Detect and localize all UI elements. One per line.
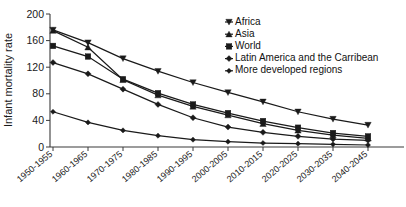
data-point-marker bbox=[50, 43, 56, 49]
data-point-marker bbox=[120, 86, 126, 92]
series-5 bbox=[50, 109, 370, 147]
data-point-marker bbox=[260, 129, 266, 135]
y-axis-label: Infant mortality rate bbox=[2, 33, 14, 127]
legend-item[interactable]: Africa bbox=[225, 16, 261, 27]
data-point-marker bbox=[330, 142, 335, 147]
x-axis-ticks bbox=[53, 147, 368, 151]
infant-mortality-chart: Infant mortality rate 04080120160200 195… bbox=[0, 0, 406, 207]
legend-item[interactable]: Asia bbox=[225, 28, 255, 39]
data-point-marker bbox=[295, 141, 300, 146]
x-tick-label: 1960-1965 bbox=[50, 149, 89, 184]
x-tick-label: 1980-1985 bbox=[120, 149, 159, 184]
data-point-marker bbox=[190, 137, 195, 142]
y-tick-label: 120 bbox=[26, 61, 44, 73]
data-point-marker bbox=[120, 128, 125, 133]
data-point-marker bbox=[120, 76, 126, 82]
chart-canvas: Infant mortality rate 04080120160200 195… bbox=[0, 0, 406, 207]
legend-label: Asia bbox=[235, 28, 255, 39]
data-point-marker bbox=[295, 125, 301, 131]
y-tick-label: 40 bbox=[32, 114, 44, 126]
data-point-marker bbox=[50, 60, 56, 66]
series-layer bbox=[50, 27, 371, 147]
x-tick-label: 2000-2005 bbox=[190, 149, 229, 184]
data-point-marker bbox=[330, 130, 336, 136]
x-tick-label: 1950-1955 bbox=[15, 149, 54, 184]
legend-label: Latin America and the Carribean bbox=[235, 52, 378, 63]
x-tick-label: 1990-1995 bbox=[155, 149, 194, 184]
data-point-marker bbox=[50, 109, 55, 114]
data-point-marker bbox=[260, 140, 265, 145]
legend-label: More developed regions bbox=[235, 64, 342, 75]
data-point-marker bbox=[225, 110, 231, 116]
data-point-marker bbox=[85, 54, 91, 60]
legend-label: World bbox=[235, 40, 261, 51]
data-point-marker bbox=[226, 56, 232, 62]
legend-item[interactable]: World bbox=[225, 40, 261, 51]
data-point-marker bbox=[226, 44, 232, 50]
x-tick-label: 2010-2015 bbox=[225, 149, 264, 184]
data-point-marker bbox=[225, 124, 231, 130]
legend-label: Africa bbox=[235, 16, 261, 27]
x-tick-label: 2030-2035 bbox=[295, 149, 334, 184]
chart-legend: AfricaAsiaWorldLatin America and the Car… bbox=[225, 16, 378, 76]
data-point-marker bbox=[85, 120, 90, 125]
x-axis-tick-labels: 1950-19551960-19651970-19751980-19851990… bbox=[15, 149, 369, 184]
y-tick-label: 200 bbox=[26, 8, 44, 20]
data-point-marker bbox=[155, 90, 161, 96]
data-point-marker bbox=[155, 133, 160, 138]
data-point-marker bbox=[85, 71, 91, 77]
legend-item[interactable]: Latin America and the Carribean bbox=[225, 52, 378, 63]
x-tick-label: 2020-2025 bbox=[260, 149, 299, 184]
data-point-marker bbox=[190, 115, 196, 121]
data-point-marker bbox=[85, 44, 91, 50]
y-tick-label: 0 bbox=[38, 141, 44, 153]
data-point-marker bbox=[295, 133, 301, 139]
data-point-marker bbox=[155, 101, 161, 107]
y-tick-label: 80 bbox=[32, 87, 44, 99]
x-tick-label: 1970-1975 bbox=[85, 149, 124, 184]
y-tick-label: 160 bbox=[26, 34, 44, 46]
data-point-marker bbox=[225, 139, 230, 144]
legend-item[interactable]: More developed regions bbox=[225, 64, 342, 75]
x-tick-label: 2040-2045 bbox=[330, 149, 369, 184]
data-point-marker bbox=[260, 118, 266, 124]
y-axis-ticks: 04080120160200 bbox=[26, 8, 50, 153]
data-point-marker bbox=[226, 68, 231, 73]
data-point-marker bbox=[190, 102, 196, 108]
